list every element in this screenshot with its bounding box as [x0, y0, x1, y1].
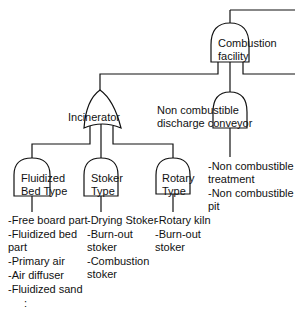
node-incinerator: Incinerator	[68, 111, 120, 124]
edge-root-right	[243, 62, 295, 74]
list-item-text: -Fluidized bed	[8, 228, 87, 241]
list-item-text: -Rotary kiln	[155, 214, 211, 227]
list-item-text: -Primary air	[8, 255, 87, 268]
node-label: Non combustible	[157, 104, 252, 117]
list-item-text: -Burn-out	[87, 228, 157, 241]
list-item-text: part	[8, 241, 87, 254]
list-item: -Non combustibletreatment	[208, 160, 294, 186]
node-label: Type	[91, 185, 123, 198]
list-item-text: -Combustion	[87, 255, 157, 268]
list-item: -Free board part	[8, 214, 87, 227]
node-label: facility	[218, 50, 277, 63]
list-item-text: -Non combustible	[208, 187, 294, 200]
list-item: -Fluidized sand	[8, 283, 87, 296]
list-item: -Fluidized bedpart	[8, 228, 87, 254]
list-item: -Combustionstoker	[87, 255, 157, 281]
node-rotary-type: Rotary Type	[162, 172, 194, 198]
node-label: Incinerator	[68, 111, 120, 124]
list-item-text: -Free board part	[8, 214, 87, 227]
rotary-components-list: -Rotary kiln -Burn-outstoker	[155, 214, 211, 255]
node-label: Stoker	[91, 172, 123, 185]
list-item-ellipsis: :	[8, 297, 87, 310]
list-item-text: -Burn-out	[155, 228, 211, 241]
root-connector	[230, 10, 295, 23]
node-label: Rotary	[162, 172, 194, 185]
node-label: Type	[162, 185, 194, 198]
list-item-text: stoker	[87, 241, 157, 254]
fluidized-components-list: -Free board part -Fluidized bedpart -Pri…	[8, 214, 87, 311]
discharge-components-list: -Non combustibletreatment -Non combustib…	[208, 160, 294, 214]
node-discharge-conveyor: Non combustible discharge conveyor	[157, 104, 252, 130]
list-item: -Rotary kiln	[155, 214, 211, 227]
list-item: -Air diffuser	[8, 269, 87, 282]
list-item-text: -Air diffuser	[8, 269, 87, 282]
list-item: -Burn-outstoker	[87, 228, 157, 254]
node-label: Fluidized	[21, 172, 67, 185]
list-item-text: -Non combustible	[208, 160, 294, 173]
list-item: -Drying Stoker	[87, 214, 157, 227]
list-item-text: :	[24, 297, 87, 310]
node-label: discharge conveyor	[157, 117, 252, 130]
edge-incinerator-fluidized	[32, 126, 90, 158]
stoker-components-list: -Drying Stoker -Burn-outstoker -Combusti…	[87, 214, 157, 282]
list-item-text: -Drying Stoker	[87, 214, 157, 227]
list-item: -Non combustiblepit	[208, 187, 294, 213]
node-label: Bed Type	[21, 185, 67, 198]
node-combustion-facility: Combustion facility	[218, 37, 277, 63]
edge-incinerator-rotary	[113, 126, 173, 158]
list-item-text: stoker	[155, 241, 211, 254]
edge-root-incinerator	[100, 62, 218, 90]
node-stoker-type: Stoker Type	[91, 172, 123, 198]
list-item-text: treatment	[208, 173, 294, 186]
list-item: -Primary air	[8, 255, 87, 268]
node-label: Combustion	[218, 37, 277, 50]
list-item: -Burn-outstoker	[155, 228, 211, 254]
list-item-text: -Fluidized sand	[8, 283, 87, 296]
list-item-text: pit	[208, 200, 294, 213]
list-item-text: stoker	[87, 268, 157, 281]
node-fluidized-bed-type: Fluidized Bed Type	[21, 172, 67, 198]
